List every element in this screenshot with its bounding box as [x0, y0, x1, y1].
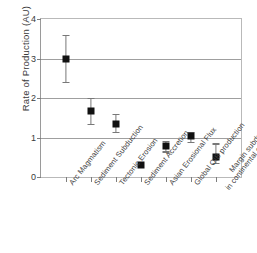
error-bar-cap [163, 141, 170, 142]
data-point-marker [113, 120, 120, 127]
error-bar-cap [63, 82, 70, 83]
y-tick-label: 3 [15, 54, 41, 64]
y-gridline [41, 59, 241, 60]
y-tick-label: 1 [15, 133, 41, 143]
error-bar-cap [88, 98, 95, 99]
error-bar-cap [63, 35, 70, 36]
error-bar-cap [113, 114, 120, 115]
y-tick-label: 4 [15, 14, 41, 24]
error-bar-cap [188, 142, 195, 143]
data-point-marker [63, 55, 70, 62]
y-tick-label: 2 [15, 93, 41, 103]
data-point-marker [88, 108, 95, 115]
error-bar-cap [213, 143, 220, 144]
y-tick-label: 0 [15, 172, 41, 182]
chart-figure: Rate of Production (AU) 01234 Arc Magmat… [0, 0, 257, 253]
error-bar-cap [113, 132, 120, 133]
y-gridline [41, 98, 241, 99]
error-bar-cap [88, 124, 95, 125]
